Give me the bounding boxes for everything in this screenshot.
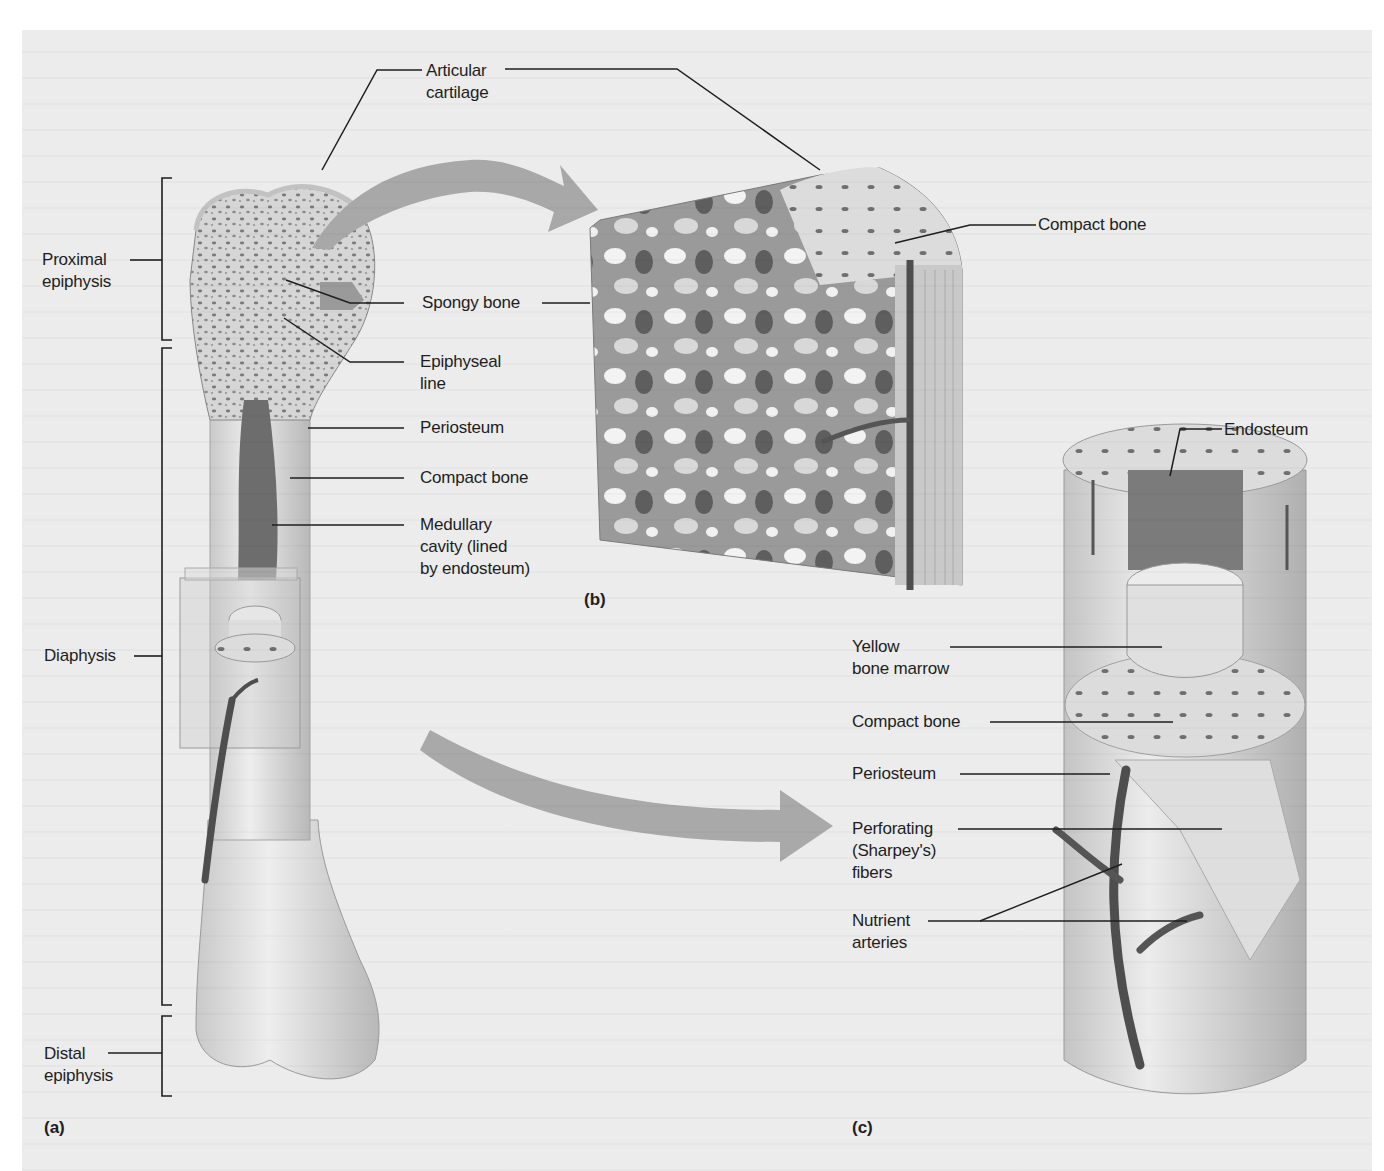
label-periosteum-c: Periosteum bbox=[852, 763, 936, 785]
panel-label-a: (a) bbox=[44, 1118, 65, 1138]
region-brackets bbox=[108, 178, 172, 1096]
label-diaphysis: Diaphysis bbox=[44, 645, 116, 667]
label-perforating-fibers: Perforating (Sharpey's) fibers bbox=[852, 818, 936, 884]
label-compact-bone-b: Compact bone bbox=[1038, 214, 1146, 236]
label-epiphyseal-line: Epiphyseal line bbox=[420, 351, 501, 395]
panel-label-b: (b) bbox=[584, 590, 606, 610]
bone-illustration bbox=[22, 30, 1372, 1171]
label-nutrient-arteries: Nutrient arteries bbox=[852, 910, 910, 954]
long-bone bbox=[180, 187, 379, 1079]
label-periosteum-a: Periosteum bbox=[420, 417, 504, 439]
label-distal-epiphysis: Distal epiphysis bbox=[44, 1043, 113, 1087]
figure-page: Proximal epiphysis Diaphysis Distal epip… bbox=[22, 30, 1372, 1171]
label-articular-cartilage: Articular cartilage bbox=[426, 60, 488, 104]
label-spongy-bone: Spongy bone bbox=[422, 292, 520, 314]
label-yellow-bone-marrow: Yellow bone marrow bbox=[852, 636, 949, 680]
panel-label-c: (c) bbox=[852, 1118, 873, 1138]
label-compact-bone-c: Compact bone bbox=[852, 711, 960, 733]
diaphysis-section bbox=[1056, 424, 1307, 1094]
label-medullary-cavity: Medullary cavity (lined by endosteum) bbox=[420, 514, 530, 580]
label-endosteum: Endosteum bbox=[1224, 419, 1308, 441]
spongy-bone-block bbox=[590, 167, 962, 590]
arrow-to-c bbox=[420, 730, 833, 862]
label-compact-bone-a: Compact bone bbox=[420, 467, 528, 489]
label-proximal-epiphysis: Proximal epiphysis bbox=[42, 249, 111, 293]
